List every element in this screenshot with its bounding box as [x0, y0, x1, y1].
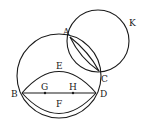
label-k: K — [129, 18, 136, 28]
point-h — [72, 92, 74, 94]
label-c: C — [101, 74, 108, 84]
circle-k — [67, 10, 129, 72]
label-g: G — [41, 82, 48, 92]
label-h: H — [69, 82, 77, 92]
label-f: F — [56, 99, 62, 109]
point-g — [44, 92, 46, 94]
label-a: A — [62, 27, 70, 37]
label-e: E — [56, 61, 63, 71]
label-d: D — [100, 89, 107, 99]
label-b: B — [11, 89, 18, 99]
geometry-diagram: A B C D E F G H K — [0, 0, 147, 133]
arc-bed — [22, 72, 96, 94]
